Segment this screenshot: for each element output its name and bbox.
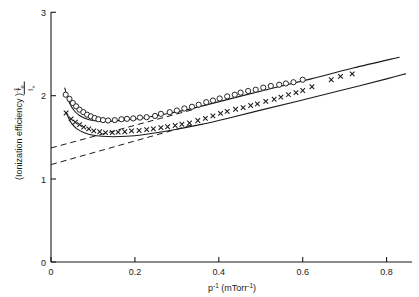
data-point-cross bbox=[211, 114, 216, 119]
data-point-cross bbox=[173, 123, 178, 128]
data-point-cross bbox=[272, 97, 277, 102]
series-circles-markers bbox=[63, 77, 305, 123]
data-point-cross bbox=[73, 120, 78, 125]
data-point-circle bbox=[167, 110, 172, 115]
x-tick-label-0p2: 0.2 bbox=[129, 267, 142, 277]
data-point-circle bbox=[105, 118, 110, 123]
fraction-denominator-subscript: + bbox=[30, 85, 36, 89]
x-tick-label-0p6: 0.6 bbox=[296, 267, 309, 277]
data-point-circle bbox=[112, 117, 117, 122]
y-tick-label-2: 2 bbox=[41, 91, 46, 101]
svg-text:I+: I+ bbox=[26, 85, 36, 91]
fraction-numerator-subscript: e bbox=[19, 85, 25, 89]
data-point-circle bbox=[137, 115, 142, 120]
data-point-circle bbox=[232, 92, 237, 97]
data-point-cross bbox=[218, 111, 223, 116]
data-point-cross bbox=[329, 77, 334, 82]
data-point-cross bbox=[286, 92, 291, 97]
y-tick-label-1: 1 bbox=[41, 175, 46, 185]
ionization-efficiency-plot: 0 1 2 3 0 0.2 0.4 0.6 0.8 p-1 (mTorr-1) … bbox=[0, 0, 419, 297]
x-axis-tick-labels: 0 0.2 0.4 0.6 0.8 bbox=[48, 267, 392, 277]
data-point-circle bbox=[217, 96, 222, 101]
data-point-circle bbox=[124, 116, 129, 121]
data-point-circle bbox=[196, 102, 201, 107]
data-point-circle bbox=[246, 88, 251, 93]
data-point-cross bbox=[196, 118, 201, 123]
y-title-text: (Ionization efficiency ) bbox=[14, 93, 24, 180]
figure-panel: 0 1 2 3 0 0.2 0.4 0.6 0.8 p-1 (mTorr-1) … bbox=[0, 0, 419, 297]
data-point-cross bbox=[300, 88, 305, 93]
data-point-circle bbox=[300, 77, 305, 82]
data-point-cross bbox=[97, 129, 102, 134]
data-point-circle bbox=[100, 117, 105, 122]
x-axis-ticks bbox=[51, 257, 387, 262]
data-point-circle bbox=[189, 104, 194, 109]
data-point-circle bbox=[204, 100, 209, 105]
data-point-circle bbox=[261, 85, 266, 90]
y-tick-label-0: 0 bbox=[41, 258, 46, 268]
data-point-cross bbox=[86, 127, 91, 132]
data-point-cross bbox=[77, 122, 82, 127]
data-point-circle bbox=[119, 117, 124, 122]
x-title-unit-open: (mTorr bbox=[219, 283, 248, 293]
data-point-cross bbox=[129, 129, 134, 134]
data-point-cross bbox=[350, 72, 355, 77]
data-point-cross bbox=[203, 116, 208, 121]
data-point-circle bbox=[182, 106, 187, 111]
data-point-cross bbox=[233, 107, 238, 112]
data-point-cross bbox=[187, 121, 192, 126]
data-point-cross bbox=[241, 105, 246, 110]
data-point-cross bbox=[144, 127, 149, 132]
x-tick-label-0: 0 bbox=[48, 267, 53, 277]
x-axis-title: p-1 (mTorr-1) bbox=[208, 282, 256, 294]
data-point-cross bbox=[225, 109, 230, 114]
upper-solid-curve bbox=[65, 57, 399, 121]
data-point-cross bbox=[310, 84, 315, 89]
y-tick-label-3: 3 bbox=[41, 8, 46, 18]
x-tick-label-0p8: 0.8 bbox=[380, 267, 393, 277]
data-point-cross bbox=[255, 102, 260, 107]
data-point-circle bbox=[291, 80, 296, 85]
data-point-cross bbox=[263, 99, 268, 104]
data-point-cross bbox=[151, 127, 156, 132]
lower-solid-curve bbox=[66, 74, 405, 137]
data-point-circle bbox=[210, 98, 215, 103]
data-point-cross bbox=[81, 125, 86, 130]
data-point-cross bbox=[103, 130, 108, 135]
svg-text:p-1 (mTorr-1): p-1 (mTorr-1) bbox=[208, 282, 256, 294]
data-point-cross bbox=[137, 128, 142, 133]
upper-dashed-extrapolation bbox=[51, 109, 196, 148]
data-point-cross bbox=[64, 111, 69, 116]
x-tick-label-0p4: 0.4 bbox=[213, 267, 226, 277]
data-point-circle bbox=[225, 94, 230, 99]
data-point-cross bbox=[159, 125, 164, 130]
data-point-cross bbox=[123, 129, 128, 134]
data-point-circle bbox=[253, 87, 258, 92]
data-point-cross bbox=[338, 74, 343, 79]
data-point-cross bbox=[91, 129, 96, 134]
data-point-cross bbox=[248, 103, 253, 108]
series-crosses-markers bbox=[64, 72, 355, 135]
data-point-cross bbox=[116, 130, 121, 135]
data-point-cross bbox=[165, 124, 170, 129]
y-axis-ticks bbox=[51, 12, 56, 262]
data-point-circle bbox=[277, 82, 282, 87]
data-point-circle bbox=[158, 111, 163, 116]
data-point-circle bbox=[131, 116, 136, 121]
y-axis-tick-labels: 0 1 2 3 bbox=[41, 8, 46, 268]
data-point-circle bbox=[152, 113, 157, 118]
data-point-circle bbox=[174, 108, 179, 113]
data-point-circle bbox=[283, 81, 288, 86]
data-point-cross bbox=[294, 90, 299, 95]
svg-text:(Ionization efficiency )-1: (Ionization efficiency )-1 bbox=[13, 87, 25, 180]
data-point-cross bbox=[279, 95, 284, 100]
data-point-cross bbox=[180, 122, 185, 127]
data-point-circle bbox=[238, 90, 243, 95]
x-title-unit-close: ) bbox=[253, 283, 256, 293]
data-point-circle bbox=[144, 115, 149, 120]
data-point-circle bbox=[268, 83, 273, 88]
y-axis-title: (Ionization efficiency )-1 bbox=[13, 87, 25, 180]
